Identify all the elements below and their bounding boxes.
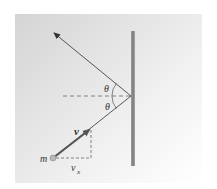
- velocity-vector-arrow: [53, 130, 89, 158]
- theta-lower-label: θ: [105, 101, 110, 112]
- theta-upper-label: θ: [104, 83, 109, 94]
- vx-subscript: x: [76, 168, 81, 176]
- wall: [131, 31, 135, 166]
- outgoing-path-arrow: [54, 33, 131, 96]
- vx-label: v: [71, 162, 76, 173]
- velocity-label: v: [74, 125, 79, 137]
- particle-mass: [50, 155, 56, 161]
- reflection-diagram: θ θ v m v x: [0, 0, 217, 189]
- mass-label: m: [40, 153, 47, 164]
